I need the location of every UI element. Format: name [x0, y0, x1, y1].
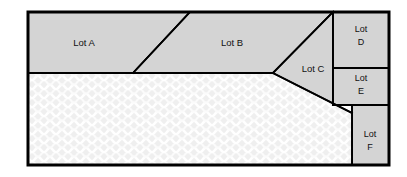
lot-f-label-line1: Lot	[364, 129, 377, 139]
lot-c-label: Lot C	[302, 63, 325, 74]
lot-f-label-line2: F	[367, 142, 373, 152]
lot-b-label: Lot B	[221, 37, 243, 48]
lot-e-label-line2: E	[358, 86, 364, 96]
lot-map-svg: Lot A Lot B Lot C Lot D Lot E Lot F	[0, 0, 407, 177]
lot-e-label-line1: Lot	[355, 73, 368, 83]
lot-plan-diagram: Lot A Lot B Lot C Lot D Lot E Lot F	[0, 0, 407, 177]
lot-a-label: Lot A	[73, 37, 95, 48]
lot-d-label-line2: D	[358, 37, 365, 47]
lot-d-label-line1: Lot	[355, 24, 368, 34]
